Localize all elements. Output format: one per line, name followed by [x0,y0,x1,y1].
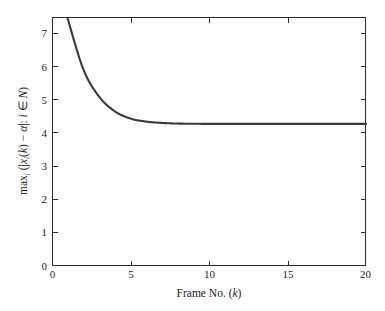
figure-container: 0 5 10 15 20 [0,0,385,311]
y-title-max: max [17,175,29,195]
x-axis-title: Frame No. (k) [177,287,242,300]
y-tick-label: 6 [42,61,48,73]
y-tick-label: 2 [42,193,48,205]
y-tick-label: 3 [42,160,48,172]
y-title-close-paren: ) [17,87,30,91]
x-tick-label: 0 [50,268,56,280]
x-tick-label: 10 [204,268,216,280]
chart-canvas: 0 5 10 15 20 [0,0,385,311]
x-tick-label: 20 [360,268,372,280]
figure-background [0,0,385,311]
x-axis-title-prefix: Frame No. ( [177,287,233,300]
x-tick-label: 15 [283,268,295,280]
y-title-in: ∈ [17,101,29,111]
y-tick-label: 7 [42,27,48,39]
y-tick-label: 4 [42,127,48,139]
y-tick-label: 1 [42,226,48,238]
y-tick-label: 0 [42,260,48,272]
x-axis-title-suffix: ) [238,287,242,300]
x-tick-label: 5 [128,268,134,280]
y-tick-label: 5 [42,94,48,106]
